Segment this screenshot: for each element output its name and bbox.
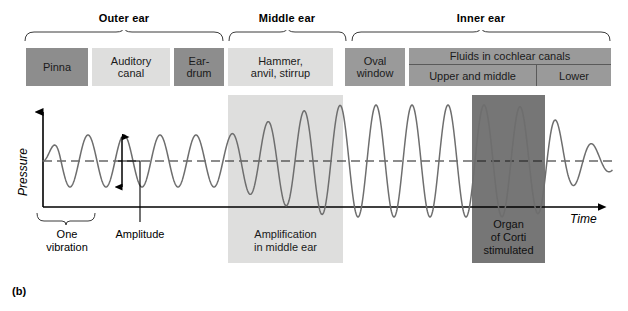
panel-letter: (b): [12, 285, 26, 297]
x-axis-label: Time: [570, 212, 597, 226]
pressure-wave-plot: [0, 0, 628, 311]
organ-of-corti-band-label: Organ of Corti stimulated: [470, 218, 547, 257]
one-vibration-label: One vibration: [30, 228, 104, 254]
ear-sound-transmission-figure: Outer ear Middle ear Inner ear Pinna Aud…: [0, 0, 628, 311]
one-vibration-brace: [37, 213, 95, 225]
amplification-band-label: Amplification in middle ear: [231, 228, 340, 254]
y-axis-label: Pressure: [16, 148, 30, 196]
amplitude-label: Amplitude: [98, 228, 182, 241]
